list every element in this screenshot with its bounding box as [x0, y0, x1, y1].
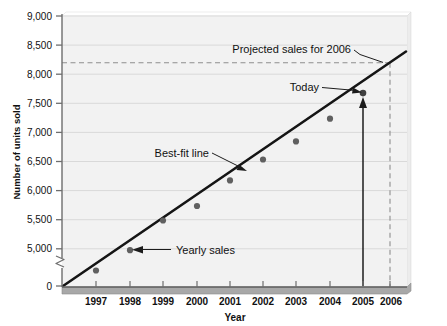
projected-sales-annotation-label: Projected sales for 2006	[232, 43, 351, 55]
data-point-2005	[360, 90, 367, 97]
x-axis-title: Year	[224, 312, 245, 323]
data-point-2002	[260, 156, 266, 162]
data-point-2000	[194, 203, 200, 209]
y-tick-label-9000: 9,000	[27, 11, 52, 22]
plot-right-bevel	[407, 12, 411, 287]
y-axis-title: Number of units sold	[11, 104, 22, 199]
x-tick-label-2002: 2002	[252, 296, 275, 307]
y-tick-label-7000: 7,000	[27, 127, 52, 138]
yearly-sales-annotation-label: Yearly sales	[176, 244, 235, 256]
y-tick-label-6500: 6,500	[27, 156, 52, 167]
x-tick-label-1997: 1997	[85, 296, 108, 307]
x-tick-label-2005: 2005	[352, 296, 375, 307]
y-tick-label-8500: 8,500	[27, 40, 52, 51]
data-point-2004	[327, 116, 333, 122]
data-point-1997	[93, 267, 99, 273]
chart-canvas: 9,000 8,500 8,000 7,500 7,000 6,500 6,00…	[0, 0, 447, 326]
data-point-2001	[227, 177, 233, 183]
y-axis-ticks	[56, 16, 62, 286]
y-tick-label-0: 0	[46, 281, 52, 292]
y-tick-label-8000: 8,000	[27, 69, 52, 80]
x-tick-label-2006: 2006	[380, 296, 403, 307]
y-tick-label-6000: 6,000	[27, 185, 52, 196]
data-point-1998	[127, 247, 133, 253]
x-tick-label-2003: 2003	[285, 296, 308, 307]
today-annotation-label: Today	[290, 81, 320, 93]
best-fit-line-annotation-label: Best-fit line	[155, 147, 209, 159]
data-point-2003	[293, 138, 299, 144]
data-point-1999	[160, 217, 166, 223]
x-tick-label-1998: 1998	[119, 296, 142, 307]
x-tick-label-1999: 1999	[152, 296, 175, 307]
x-tick-label-2004: 2004	[319, 296, 342, 307]
x-tick-label-2000: 2000	[186, 296, 209, 307]
y-tick-label-7500: 7,500	[27, 98, 52, 109]
sales-trend-chart: 9,000 8,500 8,000 7,500 7,000 6,500 6,00…	[0, 0, 447, 326]
x-tick-label-2001: 2001	[219, 296, 242, 307]
y-tick-label-5500: 5,500	[27, 214, 52, 225]
y-tick-label-5000: 5,000	[27, 243, 52, 254]
plot-top-bevel	[62, 12, 411, 16]
